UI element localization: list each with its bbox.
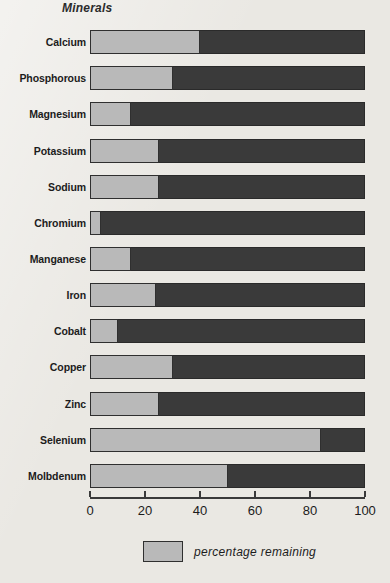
category-label: Zinc — [2, 392, 86, 416]
bar-segment-remaining — [90, 428, 321, 452]
mineral-retention-chart: Minerals CalciumPhosphorousMagnesiumPota… — [0, 0, 390, 583]
x-axis-tick — [144, 491, 146, 497]
bar-row: Manganese — [90, 247, 365, 271]
category-label: Potassium — [2, 139, 86, 163]
x-axis-tick — [309, 491, 311, 497]
bar-row: Cobalt — [90, 319, 365, 343]
bar-row: Copper — [90, 355, 365, 379]
category-label: Iron — [2, 283, 86, 307]
bar-segment-remaining — [90, 175, 159, 199]
bar-segment-remaining — [90, 139, 159, 163]
bar-segment-lost — [90, 211, 365, 235]
x-axis-tick — [254, 491, 256, 497]
category-label: Cobalt — [2, 319, 86, 343]
x-axis-tick-label: 40 — [193, 503, 207, 518]
x-axis-tick — [364, 491, 366, 497]
bar-row: Iron — [90, 283, 365, 307]
bar-row: Calcium — [90, 30, 365, 54]
bar-segment-remaining — [90, 355, 173, 379]
category-label: Magnesium — [2, 102, 86, 126]
category-label: Phosphorous — [2, 66, 86, 90]
x-axis-tick-label: 0 — [86, 503, 93, 518]
y-axis-title: Minerals — [62, 1, 112, 15]
x-axis: 020406080100 — [90, 497, 365, 499]
category-label: Calcium — [2, 30, 86, 54]
plot-area: CalciumPhosphorousMagnesiumPotassiumSodi… — [90, 24, 365, 494]
bar-segment-remaining — [90, 211, 101, 235]
bar-segment-remaining — [90, 102, 131, 126]
bar-segment-lost — [90, 102, 365, 126]
bar-segment-remaining — [90, 66, 173, 90]
x-axis-tick-label: 60 — [248, 503, 262, 518]
x-axis-tick — [89, 491, 91, 497]
legend-swatch-remaining — [143, 541, 183, 562]
bar-row: Selenium — [90, 428, 365, 452]
category-label: Chromium — [2, 211, 86, 235]
category-label: Selenium — [2, 428, 86, 452]
bar-segment-remaining — [90, 283, 156, 307]
legend-label-remaining: percentage remaining — [194, 545, 316, 559]
bar-segment-lost — [90, 319, 365, 343]
bar-segment-remaining — [90, 30, 200, 54]
legend: percentage remaining — [143, 541, 316, 562]
bar-segment-lost — [90, 247, 365, 271]
bar-segment-remaining — [90, 392, 159, 416]
x-axis-tick-label: 80 — [303, 503, 317, 518]
bar-segment-remaining — [90, 319, 118, 343]
x-axis-tick-label: 100 — [354, 503, 376, 518]
category-label: Molbdenum — [2, 464, 86, 488]
bar-row: Molbdenum — [90, 464, 365, 488]
bar-row: Phosphorous — [90, 66, 365, 90]
bar-row: Chromium — [90, 211, 365, 235]
bar-segment-remaining — [90, 247, 131, 271]
bar-row: Potassium — [90, 139, 365, 163]
category-label: Copper — [2, 355, 86, 379]
bar-row: Zinc — [90, 392, 365, 416]
bar-segment-remaining — [90, 464, 228, 488]
bar-row: Magnesium — [90, 102, 365, 126]
category-label: Manganese — [2, 247, 86, 271]
bar-row: Sodium — [90, 175, 365, 199]
category-label: Sodium — [2, 175, 86, 199]
x-axis-tick — [199, 491, 201, 497]
x-axis-tick-label: 20 — [138, 503, 152, 518]
